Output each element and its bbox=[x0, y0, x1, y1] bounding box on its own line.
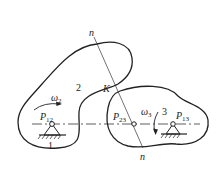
pivot-p23-icon bbox=[132, 122, 136, 126]
omega-3-arrowhead-icon bbox=[153, 129, 158, 136]
label-body-3: 3 bbox=[162, 106, 167, 117]
common-normal-line bbox=[94, 37, 143, 148]
label-n-bottom: n bbox=[140, 151, 145, 162]
label-body-2: 2 bbox=[76, 82, 81, 93]
mechanism-diagram: n n K 2 3 1 ω2 ω3 P12 P23 P13 bbox=[0, 0, 219, 173]
label-omega-3: ω3 bbox=[141, 106, 152, 119]
label-p13: P13 bbox=[175, 110, 190, 123]
label-p12: P12 bbox=[39, 111, 54, 124]
label-n-top: n bbox=[89, 27, 94, 38]
omega-2-arrow-icon bbox=[34, 104, 60, 110]
label-p23: P23 bbox=[112, 111, 127, 124]
label-k: K bbox=[102, 83, 111, 94]
label-ground-1: 1 bbox=[48, 140, 53, 151]
pivot-p12-icon bbox=[38, 122, 66, 139]
body-2-outline bbox=[18, 42, 132, 148]
